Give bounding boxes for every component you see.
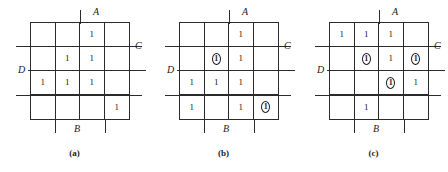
kmap-cell[interactable]: 1 — [105, 95, 130, 119]
kmap-cell-value: 1 — [214, 78, 219, 87]
kmap-cell[interactable] — [80, 95, 105, 119]
variable-a-tick — [379, 10, 380, 24]
kmap-panel: 1111111ABCD(a) — [0, 0, 149, 172]
variable-c-rail-top — [16, 46, 142, 47]
kmap-cell[interactable]: 1 — [404, 71, 429, 95]
kmap-cell[interactable]: 1 — [56, 47, 81, 71]
variable-c-rail-top — [315, 46, 441, 47]
kmap-cell[interactable] — [31, 95, 56, 119]
kmap-cell[interactable] — [404, 23, 429, 47]
kmap-cell-value: 1 — [65, 54, 70, 63]
variable-label-a: A — [392, 7, 398, 17]
kmap-cell[interactable] — [254, 47, 279, 71]
kmap-cell[interactable] — [330, 71, 355, 95]
variable-label-a: A — [93, 7, 99, 17]
kmap-cell-value: 1 — [389, 54, 394, 63]
kmap-cell[interactable] — [180, 23, 205, 47]
variable-b-tick-right — [254, 119, 255, 133]
kmap-cell[interactable] — [31, 23, 56, 47]
kmap-cell[interactable]: 1 — [229, 23, 254, 47]
variable-c-rail-bottom — [165, 95, 291, 96]
kmap-cell[interactable] — [254, 71, 279, 95]
kmap-cell-value: 1 — [239, 54, 244, 63]
kmap-cell[interactable]: 1 — [229, 95, 254, 119]
kmap-cell[interactable] — [330, 95, 355, 119]
kmap-cell[interactable]: 1 — [379, 47, 404, 71]
kmap-cell-value-circled: 1 — [261, 101, 270, 113]
kmap-panel: 111111111ABCD(b) — [149, 0, 298, 172]
kmap-cell[interactable] — [404, 95, 429, 119]
kmap-cell[interactable] — [105, 47, 130, 71]
kmap-cell[interactable] — [355, 71, 380, 95]
kmap-cell[interactable]: 1 — [80, 47, 105, 71]
variable-label-c: C — [434, 41, 441, 51]
kmap-cell[interactable] — [31, 47, 56, 71]
kmap-cell[interactable]: 1 — [56, 71, 81, 95]
variable-label-b: B — [223, 124, 229, 134]
kmap-cell-value-circled: 1 — [411, 53, 420, 65]
kmap-cell[interactable]: 1 — [404, 47, 429, 71]
kmap-cell[interactable]: 1 — [330, 23, 355, 47]
kmap-cell[interactable]: 1 — [379, 71, 404, 95]
kmap-cell[interactable]: 1 — [180, 71, 205, 95]
variable-b-tick-left — [55, 119, 56, 133]
kmap-cell[interactable] — [105, 71, 130, 95]
kmap-cell[interactable] — [330, 47, 355, 71]
variable-b-tick-left — [354, 119, 355, 133]
kmap-cell-value: 1 — [65, 78, 70, 87]
panel-caption: (b) — [149, 148, 298, 158]
kmap-cell[interactable]: 1 — [80, 71, 105, 95]
kmap-cell[interactable]: 1 — [205, 47, 230, 71]
kmap-cell-value: 1 — [115, 103, 120, 112]
karnaugh-map-figure: 1111111ABCD(a)111111111ABCD(b)111111111A… — [0, 0, 448, 172]
kmap-cell-value: 1 — [90, 30, 95, 39]
variable-b-tick-left — [204, 119, 205, 133]
kmap-cell-value-circled: 1 — [212, 53, 221, 65]
variable-label-d: D — [317, 65, 324, 75]
kmap-cell-value: 1 — [340, 30, 345, 39]
variable-c-rail-bottom — [315, 95, 441, 96]
kmap-cell[interactable] — [105, 23, 130, 47]
kmap-cell[interactable]: 1 — [229, 71, 254, 95]
variable-c-rail-bottom — [16, 95, 142, 96]
kmap-cell[interactable]: 1 — [80, 23, 105, 47]
kmap-cell[interactable]: 1 — [229, 47, 254, 71]
variable-label-d: D — [18, 65, 25, 75]
kmap-cell[interactable]: 1 — [355, 23, 380, 47]
variable-label-b: B — [74, 124, 80, 134]
kmap-cell-value: 1 — [389, 30, 394, 39]
kmap-cell[interactable] — [180, 47, 205, 71]
kmap-cell[interactable]: 1 — [180, 95, 205, 119]
kmap-cell-value: 1 — [41, 78, 46, 87]
kmap-cell-value: 1 — [239, 103, 244, 112]
kmap-cell-value: 1 — [190, 103, 195, 112]
kmap-cell[interactable] — [205, 95, 230, 119]
variable-label-c: C — [284, 41, 291, 51]
variable-label-a: A — [242, 7, 248, 17]
kmap-cell[interactable] — [56, 95, 81, 119]
kmap-cell[interactable] — [379, 95, 404, 119]
kmap-cell[interactable]: 1 — [355, 47, 380, 71]
variable-a-tick — [80, 10, 81, 24]
kmap-panel: 111111111ABCD(c) — [299, 0, 448, 172]
variable-d-rail — [28, 70, 146, 71]
kmap-cell-value: 1 — [90, 78, 95, 87]
kmap-cell[interactable]: 1 — [379, 23, 404, 47]
variable-b-tick-right — [105, 119, 106, 133]
kmap-cell-value: 1 — [190, 78, 195, 87]
variable-label-d: D — [167, 65, 174, 75]
kmap-cell[interactable]: 1 — [31, 71, 56, 95]
kmap-cell[interactable] — [205, 23, 230, 47]
kmap-cell-value: 1 — [90, 54, 95, 63]
variable-d-rail — [177, 70, 295, 71]
kmap-cell[interactable]: 1 — [355, 95, 380, 119]
kmap-cell[interactable]: 1 — [254, 95, 279, 119]
kmap-cell[interactable] — [254, 23, 279, 47]
kmap-cell[interactable]: 1 — [205, 71, 230, 95]
kmap-cell-value: 1 — [239, 30, 244, 39]
variable-label-b: B — [373, 124, 379, 134]
kmap-cell[interactable] — [56, 23, 81, 47]
variable-label-c: C — [135, 41, 142, 51]
panel-caption: (a) — [0, 148, 149, 158]
kmap-cell-value: 1 — [239, 78, 244, 87]
